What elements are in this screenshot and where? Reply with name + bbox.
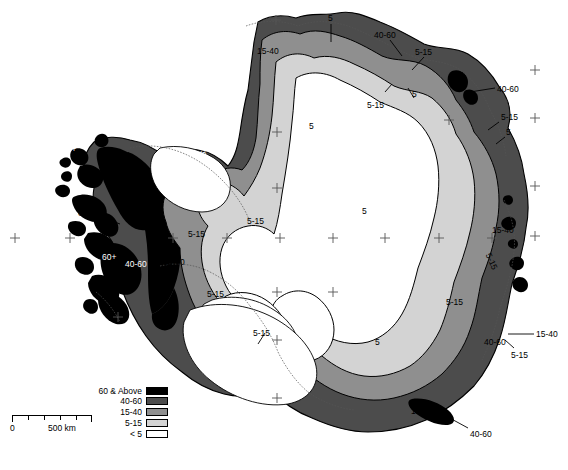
lbl-s-1540: 15-40	[411, 407, 433, 416]
lbl-c-515b: 5-15	[247, 217, 264, 226]
lbl-s-515d: 5-15	[253, 329, 270, 338]
legend-swatch-15-40	[146, 408, 168, 416]
legend-label: 5-15	[125, 418, 142, 428]
legend-item: < 5	[86, 429, 168, 438]
lbl-int-5a: 5	[309, 122, 314, 131]
lbl-peninsula-60c: 60+	[102, 253, 116, 262]
map-legend: 60 & Above 40-60 15-40 5-15 < 5	[86, 386, 168, 440]
legend-label: 15-40	[120, 407, 142, 417]
legend-label: 40-60	[120, 396, 142, 406]
legend-swatch-5-15	[146, 419, 168, 427]
legend-item: 60 & Above	[86, 386, 168, 395]
lbl-top-1540: 15-40	[257, 47, 279, 56]
lbl-int-5c: 5	[375, 338, 380, 347]
lbl-int-5b: 5	[362, 207, 367, 216]
scalebar-labels: 0 500 km	[12, 423, 92, 435]
lbl-ne-4060: 40-60	[497, 85, 519, 94]
lbl-ne-5a: 5	[412, 90, 417, 99]
lbl-w-515a: 5-15	[188, 230, 205, 239]
scalebar-max-label: 500 km	[48, 423, 76, 433]
lbl-w-4060: 40-60	[125, 260, 147, 269]
lbl-peninsula-60b: 60+	[78, 209, 92, 218]
lbl-s-4060: 40-60	[470, 430, 492, 439]
legend-item: 40-60	[86, 397, 168, 406]
legend-item: 15-40	[86, 408, 168, 417]
legend-swatch-less-than-5	[146, 430, 168, 438]
lbl-ne-515a: 5-15	[415, 48, 432, 57]
lbl-e-515c: 5-15	[501, 113, 518, 122]
lbl-top-4060: 40-60	[374, 31, 396, 40]
lbl-top-5: 5	[328, 14, 333, 23]
map-scalebar: 0 500 km	[12, 415, 92, 435]
lbl-se-515b: 5-15	[511, 351, 528, 360]
lbl-se-4060: 40-60	[484, 338, 506, 347]
lbl-se-1540b: 15-40	[536, 330, 558, 339]
scalebar-min-label: 0	[10, 423, 15, 433]
lbl-peninsula-60a: 60+	[62, 145, 76, 154]
lbl-se-515: 5-15	[446, 298, 463, 307]
antarctica-accumulation-map: 540-6015-405-1540-6055-155-15555560+60+6…	[0, 0, 568, 470]
lbl-e-5b: 5	[506, 128, 511, 137]
legend-label: 60 & Above	[99, 386, 142, 396]
legend-swatch-60-and-above	[146, 387, 168, 395]
lbl-w-1540: 15-40	[163, 258, 185, 267]
lbl-s-515c: 5-15	[207, 290, 224, 299]
legend-item: 5-15	[86, 418, 168, 427]
legend-swatch-40-60	[146, 397, 168, 405]
lbl-e-1540: 15-40	[492, 226, 514, 235]
legend-label: < 5	[130, 429, 142, 439]
lbl-ne-515b: 5-15	[367, 101, 384, 110]
scalebar-line	[12, 415, 92, 422]
